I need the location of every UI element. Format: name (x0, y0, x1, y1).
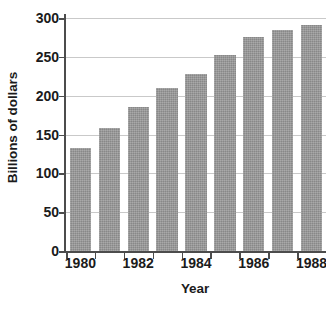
y-axis-title-label: Billions of dollars (6, 72, 21, 183)
x-tick-label: 1984 (180, 256, 211, 270)
y-axis-line (64, 14, 66, 252)
x-axis-line (64, 251, 326, 253)
bar (156, 88, 177, 251)
x-tick-label: 1986 (238, 256, 269, 270)
x-tick-label: 1982 (123, 256, 154, 270)
y-tick-label: 50 (43, 205, 59, 219)
y-axis-tick-labels: 050100150200250300 (26, 0, 62, 309)
gridline (66, 18, 326, 19)
x-tick-label: 1988 (296, 256, 326, 270)
y-tick-label: 300 (36, 11, 59, 25)
x-tick-label: 1980 (65, 256, 96, 270)
bar (99, 128, 120, 251)
bar-chart: Billions of dollars 050100150200250300 1… (0, 0, 326, 309)
y-tick-label: 250 (36, 50, 59, 64)
y-tick-label: 200 (36, 89, 59, 103)
bar (214, 55, 235, 252)
bar (70, 148, 91, 251)
plot-area (64, 14, 326, 252)
bar (243, 37, 264, 251)
y-tick-label: 0 (51, 244, 59, 258)
x-axis-tick-labels: 19801982198419861988 (64, 256, 326, 278)
y-tick-label: 150 (36, 128, 59, 142)
bar (301, 25, 322, 251)
bar (185, 74, 206, 251)
bar (128, 107, 149, 252)
y-tick-label: 100 (36, 166, 59, 180)
y-axis-title: Billions of dollars (0, 0, 26, 255)
x-axis-title: Year (64, 281, 326, 296)
bar (272, 30, 293, 251)
